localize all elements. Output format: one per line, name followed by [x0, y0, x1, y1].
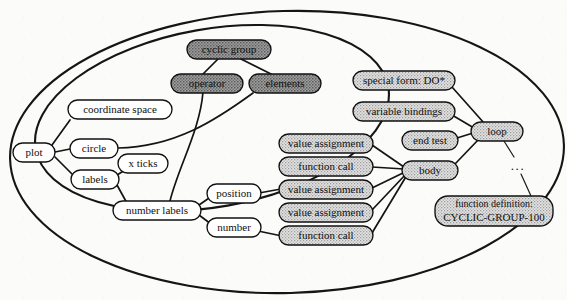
node-label-plot: plot [25, 146, 42, 158]
diagram-svg: ... cyclic group operator elements coord… [0, 0, 567, 300]
node-body[interactable]: body [402, 161, 458, 180]
node-label-special-form-do: special form: DO* [363, 74, 445, 86]
node-label-value-assignment-1: value assignment [288, 137, 364, 149]
node-label-position: position [216, 187, 252, 199]
node-circle[interactable]: circle [70, 139, 118, 158]
node-labels[interactable]: labels [71, 170, 119, 189]
diagram-canvas: ... cyclic group operator elements coord… [0, 0, 567, 300]
node-label-circle: circle [82, 142, 107, 154]
node-label-number: number [217, 221, 251, 233]
node-label-function-call-2: function call [298, 229, 353, 241]
node-label-value-assignment-3: value assignment [288, 206, 364, 218]
node-label-loop: loop [487, 125, 507, 137]
node-loop[interactable]: loop [471, 122, 523, 141]
node-elements[interactable]: elements [249, 74, 321, 93]
node-value-assignment-1[interactable]: value assignment [279, 134, 373, 153]
node-cyclic-group[interactable]: cyclic group [187, 40, 271, 59]
node-function-definition[interactable]: function definition: CYCLIC-GROUP-100 [435, 196, 553, 226]
node-label-operator: operator [189, 77, 226, 89]
node-x-ticks[interactable]: x ticks [118, 154, 168, 173]
node-value-assignment-3[interactable]: value assignment [279, 203, 373, 222]
node-position[interactable]: position [207, 184, 261, 203]
node-label-function-definition-line2: CYCLIC-GROUP-100 [443, 211, 545, 223]
node-label-variable-bindings: variable bindings [366, 105, 442, 117]
node-operator[interactable]: operator [171, 74, 243, 93]
node-label-number-labels: number labels [126, 204, 188, 216]
node-label-elements: elements [265, 77, 304, 89]
node-label-cyclic-group: cyclic group [202, 43, 257, 55]
node-label-function-call-1: function call [298, 160, 353, 172]
node-label-x-ticks: x ticks [128, 157, 157, 169]
node-number[interactable]: number [207, 218, 261, 237]
node-variable-bindings[interactable]: variable bindings [353, 102, 455, 121]
node-number-labels[interactable]: number labels [113, 201, 201, 220]
node-coordinate-space[interactable]: coordinate space [68, 100, 172, 119]
node-label-function-definition-line1: function definition: [455, 198, 533, 209]
loop-ellipsis-label: ... [511, 158, 526, 173]
node-plot[interactable]: plot [13, 143, 55, 162]
node-label-end-test: end test [413, 134, 447, 146]
node-function-call-2[interactable]: function call [279, 226, 373, 245]
node-label-value-assignment-2: value assignment [288, 183, 364, 195]
node-label-coordinate-space: coordinate space [83, 103, 157, 115]
node-value-assignment-2[interactable]: value assignment [279, 180, 373, 199]
node-end-test[interactable]: end test [402, 131, 458, 150]
node-label-body: body [419, 164, 442, 176]
node-label-labels: labels [82, 173, 108, 185]
node-special-form-do[interactable]: special form: DO* [353, 71, 455, 90]
node-function-call-1[interactable]: function call [279, 157, 373, 176]
